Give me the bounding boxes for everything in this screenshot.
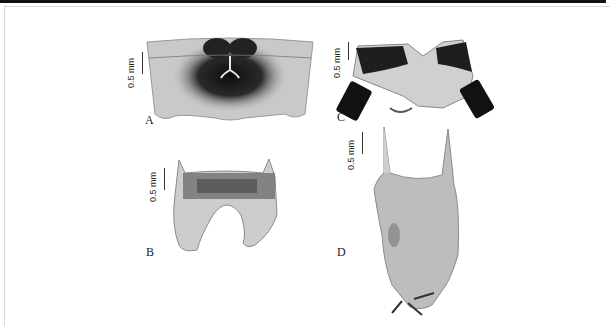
specimen-image-a <box>145 30 315 130</box>
specimen-image-c <box>348 36 498 126</box>
panel-label-a: A <box>145 113 154 128</box>
panel-label-c: C <box>337 110 345 125</box>
top-border <box>0 0 606 3</box>
panel-label-d: D <box>337 245 346 260</box>
specimen-image-d <box>362 125 472 315</box>
scale-bar-b: 0.5 mm <box>152 168 166 198</box>
scale-bar-a: 0.5 mm <box>130 52 144 82</box>
panel-label-b: B <box>146 245 154 260</box>
specimen-image-b <box>167 155 287 255</box>
